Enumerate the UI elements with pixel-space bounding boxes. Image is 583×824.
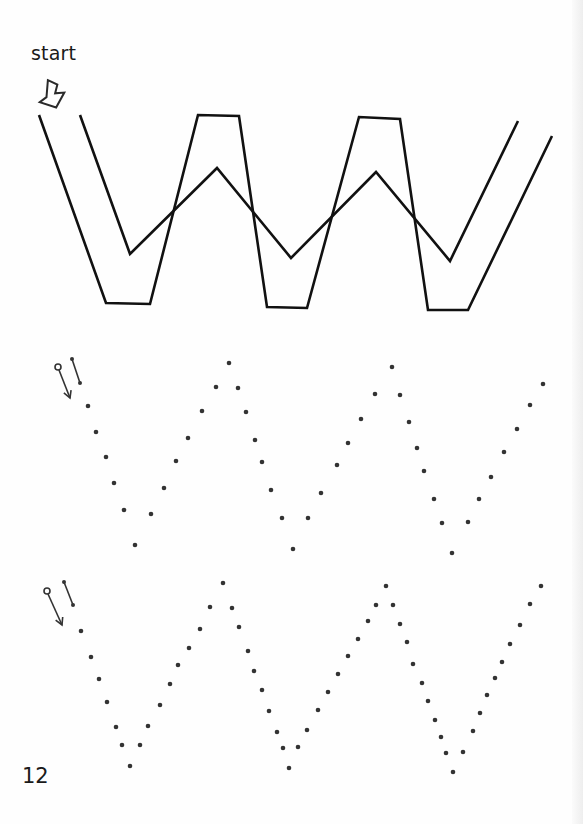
trace-dot [306, 516, 311, 521]
trace-dot [500, 660, 505, 665]
trace-dot [198, 627, 203, 632]
trace-dot [477, 497, 482, 502]
trace-dot [420, 681, 425, 686]
trace-dot [515, 427, 520, 432]
trace-dot [176, 663, 181, 668]
trace-dot [133, 543, 138, 548]
trace-dot [422, 469, 427, 474]
trace-dot [426, 699, 431, 704]
trace-dot [94, 430, 99, 435]
worksheet-page: start 12 [0, 0, 583, 824]
trace-dot [461, 750, 466, 755]
trace-dot [174, 459, 179, 464]
trace-dot [208, 605, 213, 610]
dotted-letter-w-row-2 [44, 580, 543, 774]
trace-dot [280, 516, 285, 521]
trace-dot [252, 669, 257, 674]
trace-dot [478, 711, 483, 716]
trace-dot [122, 508, 127, 513]
trace-dot [450, 551, 455, 556]
trace-dot [411, 662, 416, 667]
trace-dot [398, 622, 403, 627]
trace-dot [275, 730, 280, 735]
trace-dot [374, 603, 379, 608]
trace-dot [89, 655, 94, 660]
trace-dot [237, 625, 242, 630]
trace-dot [162, 486, 167, 491]
trace-dot [200, 409, 205, 414]
trace-dot [384, 584, 389, 589]
trace-dot [253, 438, 258, 443]
trace-dot [138, 743, 143, 748]
trace-dot [451, 770, 456, 775]
trace-dot [186, 436, 191, 441]
trace-dot [373, 392, 378, 397]
trace-dot [471, 729, 476, 734]
trace-dot [267, 709, 272, 714]
trace-dot [316, 708, 321, 713]
trace-dot [149, 512, 154, 517]
trace-dot [79, 629, 84, 634]
trace-dot [105, 700, 110, 705]
trace-dot [104, 455, 109, 460]
trace-dot [214, 385, 219, 390]
trace-dot [493, 676, 498, 681]
trace-dot [366, 619, 371, 624]
trace-dot [291, 547, 296, 552]
trace-dot [508, 642, 513, 647]
letter-inner-outline [80, 115, 518, 261]
trace-dot [230, 606, 235, 611]
trace-dot [221, 581, 226, 586]
trace-dot [539, 584, 544, 589]
trace-dot [359, 417, 364, 422]
trace-dot [305, 728, 310, 733]
trace-dot [336, 672, 341, 677]
trace-dot [489, 475, 494, 480]
trace-dot [128, 764, 133, 769]
trace-dot [502, 450, 507, 455]
trace-dot [528, 602, 533, 607]
outline-letter-w [39, 115, 552, 310]
trace-dot [518, 623, 523, 628]
trace-dot [246, 649, 251, 654]
dotted-letter-w-row-1 [55, 357, 545, 555]
trace-dot [227, 361, 232, 366]
trace-dot [319, 491, 324, 496]
trace-dot [335, 463, 340, 468]
trace-dot [415, 446, 420, 451]
trace-dot [168, 682, 173, 687]
trace-dot [407, 420, 412, 425]
trace-dot [97, 677, 102, 682]
trace-dot [260, 688, 265, 693]
trace-dot [356, 637, 361, 642]
trace-dot [158, 703, 163, 708]
trace-dot [86, 404, 91, 409]
trace-dot [120, 743, 125, 748]
page-number: 12 [22, 764, 49, 788]
trace-dot [296, 745, 301, 750]
trace-dot [187, 646, 192, 651]
trace-dot [485, 693, 490, 698]
stroke-direction-arrow-icon [44, 580, 75, 625]
trace-dot [112, 481, 117, 486]
trace-dot [146, 724, 151, 729]
trace-dot [541, 382, 546, 387]
trace-dot [269, 488, 274, 493]
trace-dot [391, 603, 396, 608]
worksheet-art [0, 0, 583, 824]
trace-dot [236, 386, 241, 391]
trace-dot [432, 497, 437, 502]
trace-dot [405, 640, 410, 645]
trace-dot [433, 718, 438, 723]
trace-dot [440, 521, 445, 526]
trace-dot [326, 690, 331, 695]
trace-dot [398, 393, 403, 398]
trace-dot [244, 410, 249, 415]
trace-dot [439, 735, 444, 740]
trace-dot [390, 365, 395, 370]
trace-dot [287, 766, 292, 771]
trace-dot [466, 520, 471, 525]
trace-dot [346, 441, 351, 446]
trace-dot [260, 460, 265, 465]
trace-dot [346, 654, 351, 659]
